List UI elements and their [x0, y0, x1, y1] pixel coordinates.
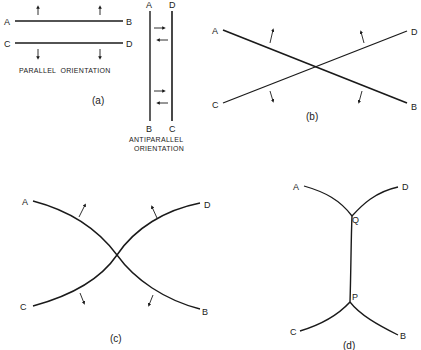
- strand-aq: [304, 186, 352, 216]
- label-c: C: [212, 100, 219, 110]
- strand-cd: [33, 203, 200, 306]
- label-a: A: [4, 17, 10, 27]
- arrow-icon: [79, 205, 85, 217]
- label-a: A: [146, 0, 152, 10]
- label-b: B: [202, 307, 208, 317]
- parallel-caption: PARALLEL ORIENTATION: [19, 67, 111, 74]
- arrow-icon: [152, 207, 157, 218]
- arrow-icon: [270, 91, 273, 101]
- panel-a-parallel: A B C D PARALLEL ORIENTATION: [4, 7, 133, 74]
- arrow-icon: [149, 295, 153, 305]
- panel-d: A D Q P C B (d): [290, 182, 409, 350]
- antiparallel-caption-1: ANTIPARALLEL: [129, 136, 183, 143]
- label-b: B: [400, 331, 406, 341]
- label-d: D: [204, 200, 211, 210]
- label-c: C: [169, 124, 176, 134]
- panel-b-caption: (b): [306, 111, 318, 122]
- label-d: D: [411, 27, 418, 37]
- strand-cp: [300, 302, 350, 331]
- label-a: A: [212, 26, 218, 36]
- label-b: B: [146, 124, 152, 134]
- label-a: A: [293, 182, 299, 192]
- label-d: D: [402, 182, 409, 192]
- antiparallel-caption-2: ORIENTATION: [134, 145, 184, 152]
- strand-pb: [350, 302, 398, 335]
- label-d: D: [169, 0, 176, 10]
- panel-a-caption: (a): [92, 95, 104, 106]
- label-a: A: [22, 197, 28, 207]
- panel-d-caption: (d): [343, 340, 355, 350]
- arrow-icon: [361, 32, 364, 43]
- label-c: C: [20, 302, 27, 312]
- label-b: B: [126, 17, 132, 27]
- label-b: B: [411, 102, 417, 112]
- label-c: C: [4, 39, 11, 49]
- label-q: Q: [352, 215, 359, 225]
- arrow-icon: [270, 30, 273, 43]
- panel-c: A D C B (c): [20, 197, 211, 344]
- panel-b: A D C B (b): [212, 26, 418, 122]
- panel-a-antiparallel: A D B C ANTIPARALLEL ORIENTATION: [129, 0, 184, 152]
- dna-orientation-diagram: A B C D PARALLEL ORIENTATION (a) A D B C…: [0, 0, 421, 350]
- panel-c-caption: (c): [110, 333, 122, 344]
- strand-qd: [352, 187, 398, 216]
- strand-qp: [350, 216, 352, 302]
- label-c: C: [290, 327, 297, 337]
- arrow-icon: [359, 91, 362, 102]
- label-p: P: [352, 292, 358, 302]
- arrow-icon: [80, 293, 84, 303]
- label-d: D: [126, 39, 133, 49]
